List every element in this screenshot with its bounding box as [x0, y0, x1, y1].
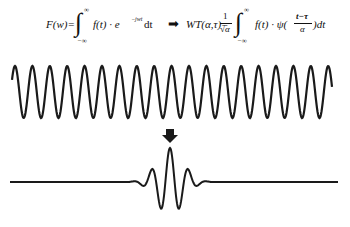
wavelet: [10, 148, 338, 209]
signals-canvas: [0, 0, 350, 227]
sine-wave: [12, 66, 332, 118]
down-arrow-icon: [162, 129, 178, 143]
